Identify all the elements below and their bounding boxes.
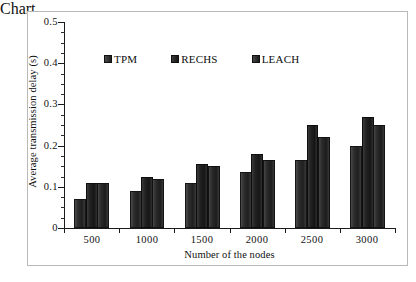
bar-rechs-2000 — [251, 154, 263, 228]
y-tick-minor — [61, 94, 65, 95]
bar-tpm-1500 — [185, 183, 197, 228]
x-tick — [395, 228, 396, 233]
x-tick-label: 500 — [64, 234, 120, 245]
legend-label: RECHS — [181, 53, 217, 65]
x-tick-label: 2500 — [284, 234, 340, 245]
legend-label: TPM — [114, 53, 137, 65]
x-tick-label: 3000 — [339, 234, 395, 245]
y-tick-major — [58, 187, 65, 188]
y-tick-major — [58, 63, 65, 64]
x-tick — [119, 228, 120, 233]
y-axis-tick-labels: 00.10.20.30.40.5 — [20, 22, 58, 228]
y-tick-major — [58, 146, 65, 147]
y-tick-minor — [61, 115, 65, 116]
y-tick-minor — [61, 74, 65, 75]
legend-swatch-icon — [252, 55, 260, 63]
y-tick-major — [58, 22, 65, 23]
legend-label: LEACH — [262, 53, 300, 65]
bar-tpm-500 — [74, 199, 86, 228]
x-tick — [340, 228, 341, 233]
y-tick-label: 0.2 — [24, 141, 58, 151]
figure: Average transmission delay (s) 00.10.20.… — [0, 0, 416, 282]
y-tick-minor — [61, 177, 65, 178]
bar-leach-2000 — [263, 160, 275, 228]
bar-leach-1500 — [208, 166, 220, 228]
x-axis-title: Number of the nodes — [64, 249, 395, 260]
legend-item-rechs: RECHS — [171, 53, 217, 65]
x-tick-label: 1500 — [174, 234, 230, 245]
y-tick-minor — [61, 156, 65, 157]
bar-leach-3000 — [373, 125, 385, 228]
y-tick-minor — [61, 207, 65, 208]
x-tick-label: 1000 — [119, 234, 175, 245]
y-tick-label: 0.3 — [24, 99, 58, 109]
bar-tpm-1000 — [130, 191, 142, 228]
x-tick — [174, 228, 175, 233]
y-tick-minor — [61, 166, 65, 167]
bar-rechs-3000 — [362, 117, 374, 228]
y-tick-minor — [61, 43, 65, 44]
bar-tpm-2000 — [240, 172, 252, 228]
bar-leach-2500 — [318, 137, 330, 228]
y-tick-minor — [61, 135, 65, 136]
bar-rechs-1000 — [141, 177, 153, 229]
y-tick-minor — [61, 32, 65, 33]
legend-swatch-icon — [171, 55, 179, 63]
y-tick-minor — [61, 84, 65, 85]
y-tick-label: 0.4 — [24, 58, 58, 68]
x-tick-label: 2000 — [229, 234, 285, 245]
x-tick — [64, 228, 65, 233]
y-tick-label: 0 — [24, 223, 58, 233]
bar-rechs-500 — [86, 183, 98, 228]
y-tick-minor — [61, 53, 65, 54]
x-tick — [230, 228, 231, 233]
y-tick-minor — [61, 197, 65, 198]
bar-leach-1000 — [152, 179, 164, 228]
chart-legend: TPMRECHSLEACH — [104, 53, 299, 65]
y-tick-label: 0.5 — [24, 17, 58, 27]
legend-swatch-icon — [104, 55, 112, 63]
legend-item-tpm: TPM — [104, 53, 137, 65]
bar-tpm-2500 — [295, 160, 307, 228]
y-tick-minor — [61, 125, 65, 126]
bar-leach-500 — [97, 183, 109, 228]
bar-rechs-1500 — [196, 164, 208, 228]
x-tick — [285, 228, 286, 233]
bar-tpm-3000 — [350, 146, 362, 228]
bar-rechs-2500 — [307, 125, 319, 228]
y-tick-minor — [61, 218, 65, 219]
legend-item-leach: LEACH — [252, 53, 300, 65]
y-tick-major — [58, 104, 65, 105]
y-tick-label: 0.1 — [24, 182, 58, 192]
